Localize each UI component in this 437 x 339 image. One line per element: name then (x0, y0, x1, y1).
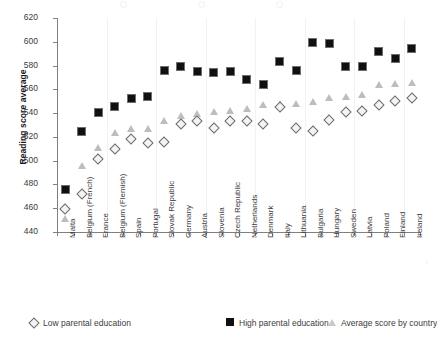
data-point (374, 47, 383, 56)
gridline (156, 18, 157, 232)
x-tick-label: Austria (200, 213, 209, 238)
gridline (107, 18, 108, 232)
y-axis-line (57, 18, 58, 232)
data-point (226, 107, 234, 114)
data-point (259, 80, 268, 89)
data-point (406, 92, 417, 103)
data-point (391, 54, 400, 63)
data-point (111, 129, 119, 136)
data-point (78, 162, 86, 169)
x-tick-label: Portugal (151, 208, 160, 238)
data-point (358, 91, 366, 98)
data-point (125, 134, 136, 145)
top-decoration (120, 1, 320, 7)
data-point (61, 185, 70, 194)
x-tick-label: Germany (184, 205, 193, 238)
y-tick-label: 560 (10, 84, 38, 93)
data-point (290, 123, 301, 134)
data-point (292, 100, 300, 107)
data-point (209, 68, 218, 77)
data-point (391, 80, 399, 87)
data-point (325, 94, 333, 101)
data-point (358, 62, 367, 71)
data-point (342, 93, 350, 100)
y-tick (53, 66, 57, 67)
data-point (242, 75, 251, 84)
y-tick (53, 42, 57, 43)
legend-marker-diamond-open (28, 317, 39, 328)
x-tick-label: Poland (382, 213, 391, 238)
data-point (257, 118, 268, 129)
data-point (307, 125, 318, 136)
x-tick-label: Lithuania (299, 206, 308, 238)
y-tick-label: 460 (10, 203, 38, 212)
x-tick-label: Ireland (415, 214, 424, 238)
y-tick (53, 137, 57, 138)
edge-artifact: › (425, 258, 428, 267)
x-tick-label: Bulgaria (316, 209, 325, 238)
data-point (407, 44, 416, 53)
y-tick-label: 540 (10, 108, 38, 117)
y-tick (53, 161, 57, 162)
data-point (341, 62, 350, 71)
y-tick-label: 620 (10, 13, 38, 22)
data-point (109, 143, 120, 154)
data-point (208, 123, 219, 134)
y-tick-label: 480 (10, 179, 38, 188)
data-point (176, 62, 185, 71)
x-tick-label: Denmark (266, 206, 275, 238)
x-tick (57, 232, 58, 236)
data-point (59, 204, 70, 215)
data-point (92, 154, 103, 165)
x-tick-label: Italy (283, 223, 292, 238)
data-point (142, 137, 153, 148)
data-point (373, 99, 384, 110)
data-point (275, 57, 284, 66)
data-point (375, 81, 383, 88)
data-point (340, 106, 351, 117)
legend-marker-square-filled (226, 318, 234, 326)
y-tick-label: 520 (10, 132, 38, 141)
data-point (127, 94, 136, 103)
data-point (243, 105, 251, 112)
x-tick-label: France (101, 213, 110, 238)
legend-label: High parental education (239, 316, 329, 330)
data-point (292, 66, 301, 75)
legend-label: Average score by country (341, 316, 437, 330)
x-tick-label: Czech Republic (233, 182, 242, 238)
x-tick-label: Malta (68, 218, 77, 238)
x-tick-label: Belgium (Flemish) (118, 174, 127, 238)
gridline (354, 18, 355, 232)
data-point (241, 116, 252, 127)
y-tick (53, 208, 57, 209)
x-tick-label: Slovak Republic (167, 181, 176, 238)
x-tick-label: Spain (134, 218, 143, 238)
data-point (127, 125, 135, 132)
y-tick-label: 440 (10, 227, 38, 236)
data-point (110, 102, 119, 111)
x-tick-label: Hungary (332, 208, 341, 238)
gridline (404, 18, 405, 232)
data-point (94, 108, 103, 117)
data-point (210, 108, 218, 115)
x-tick-label: Netherlands (250, 195, 259, 238)
y-tick (53, 18, 57, 19)
y-tick-label: 580 (10, 61, 38, 70)
x-tick-label: Slovenia (217, 207, 226, 238)
legend-marker-triangle-filled (328, 319, 336, 326)
data-point (259, 101, 267, 108)
data-point (77, 127, 86, 136)
data-point (408, 79, 416, 86)
y-tick (53, 184, 57, 185)
y-tick-label: 600 (10, 37, 38, 46)
x-tick-label: Finland (398, 212, 407, 238)
x-tick-label: Sweden (349, 209, 358, 238)
y-tick (53, 89, 57, 90)
data-point (143, 92, 152, 101)
data-point (160, 66, 169, 75)
data-point (191, 116, 202, 127)
data-point (160, 117, 168, 124)
data-point (224, 116, 235, 127)
x-tick-label: Latvia (365, 217, 374, 238)
